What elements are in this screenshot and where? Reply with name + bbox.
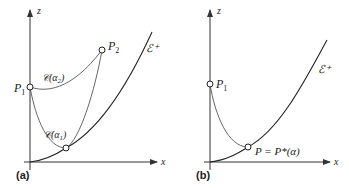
tangent-point-label: P = P*(α) [254, 145, 300, 158]
x-axis-label: x [333, 156, 339, 167]
point-p2 [99, 47, 105, 53]
tangent-point [63, 145, 69, 151]
boundary-label: ℰ⁺ [318, 63, 332, 75]
panel-b-label: (b) [196, 169, 210, 181]
boundary-curve-e-plus [210, 40, 327, 162]
tangent-point [245, 144, 251, 150]
panel-b: z x ℰ⁺ P1 P = P*(α) (b) [196, 5, 339, 181]
panel-a: z x ℰ⁺ P1 P2 𝒞(α2) 𝒞(α1) (a) [13, 5, 166, 181]
z-axis-label: z [36, 5, 41, 16]
p2-label: P2 [107, 39, 119, 55]
point-p1 [27, 84, 33, 90]
c-alpha2-label: 𝒞(α2) [42, 72, 65, 85]
p1-label: P1 [13, 81, 25, 97]
point-p1 [207, 81, 213, 87]
curve-c-alpha2 [30, 50, 102, 89]
curve-c-alpha1-right [66, 50, 102, 148]
optimal-curve [210, 84, 248, 147]
panel-a-label: (a) [16, 169, 30, 181]
c-alpha1-label: 𝒞(α1) [44, 129, 67, 142]
figure: z x ℰ⁺ P1 P2 𝒞(α2) 𝒞(α1) (a) z x ℰ⁺ P1 P… [0, 0, 349, 188]
p1-label: P1 [215, 77, 227, 93]
z-axis-label: z [216, 5, 221, 16]
x-axis-label: x [160, 156, 166, 167]
boundary-label: ℰ⁺ [146, 42, 160, 54]
